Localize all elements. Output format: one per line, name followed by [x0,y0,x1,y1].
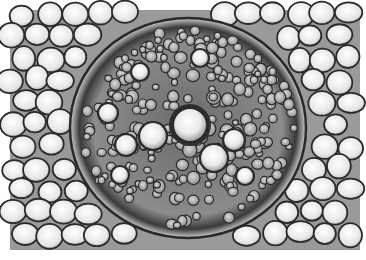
cortex-cell [36,224,63,249]
stele-cell [171,79,177,86]
stele-cell [214,66,222,75]
stele-cell [174,52,187,64]
xylem-vessel [131,63,149,81]
stele-cell [231,56,242,67]
stele-cell [193,212,201,220]
cortex-cell [339,223,362,247]
xylem-vessel [200,144,228,172]
stele-cell [81,148,90,158]
stele-cell [127,188,134,194]
stele-cell [255,71,261,77]
cortex-cell [88,1,112,25]
xylem-vessel [115,134,137,156]
stele-cell [269,114,278,123]
micrograph-image [0,0,366,260]
stele-cell [187,171,200,185]
xylem-vessel [98,103,118,123]
stele-cell [152,84,159,90]
xylem-vessel [111,166,129,184]
cortex-cell [0,200,26,223]
stele-cell [122,55,129,63]
cortex-cell [275,201,298,223]
stele-cell [91,166,101,177]
cortex-cell [235,2,262,24]
stele-cell [234,43,242,51]
stele-cell [228,187,238,196]
stele-cell [263,157,274,169]
cortex-cell [324,114,347,134]
stele-cell [166,173,174,181]
stele-cell [281,138,290,146]
stele-cell [148,155,155,162]
stele-cell [234,83,246,96]
stele-cell [269,68,276,76]
cortex-cell [23,112,45,133]
stele-cell [155,37,162,44]
stele-cell [84,133,91,139]
cortex-cell [0,112,26,136]
cortex-cell [310,177,336,200]
xylem-vessel [223,129,245,151]
root-cross-section-micrograph [0,0,366,260]
cortex-cell [336,45,359,68]
cortex-cell [335,2,362,22]
stele-cell [161,62,170,73]
stele-cell [223,212,234,223]
cortex-cell [25,199,53,222]
stele-cell [161,54,168,61]
stele-cell [261,76,268,84]
cortex-cell [302,69,325,91]
stele-cell [140,46,146,52]
stele-cell [284,99,295,110]
stele-cell [179,32,187,40]
stele-cell [238,204,245,211]
stele-cell [258,96,266,104]
stele-cell [144,167,151,173]
stele-cell [205,195,214,204]
stele-cell [224,111,232,120]
stele-cell [173,222,180,228]
cortex-cell [301,201,323,221]
stele-cell [112,92,123,101]
stele-cell [131,49,137,56]
cortex-cell [277,26,300,50]
stele-cell [169,42,179,53]
cortex-cell [308,91,335,116]
stele-cell [146,177,153,184]
stele-cell [157,45,163,52]
cortex-cell [314,223,336,244]
stele-cell [146,41,154,49]
cortex-cell [263,221,287,246]
cortex-cell [337,93,365,113]
stele-cell [214,32,221,39]
stele-cell [219,75,226,81]
stele-cell [154,182,161,189]
cortex-cell [0,23,24,48]
stele-cell [125,194,134,202]
stele-cell [188,195,199,205]
stele-cell [252,109,261,119]
cortex-cell [287,221,315,242]
cortex-cell [64,46,86,67]
stele-cell [110,79,121,91]
cortex-cell [12,223,38,245]
cortex-cell [309,2,334,25]
stele-cell [244,147,255,157]
stele-cell [139,180,148,190]
stele-cell [254,54,262,62]
stele-cell [205,181,211,188]
stele-cell [260,124,269,133]
stele-cell [244,122,257,136]
cortex-cell [327,70,353,94]
stele-cell [82,106,92,117]
cortex-cell [327,24,353,45]
cortex-cell [46,71,73,91]
cortex-cell [0,70,23,94]
cortex-cell [260,2,285,23]
cortex-cell [38,2,62,26]
central-xylem-vessel [173,108,207,142]
stele-cell [98,177,105,184]
cortex-cell [323,201,348,225]
xylem-vessel [139,122,167,150]
stele-cell [252,159,264,169]
